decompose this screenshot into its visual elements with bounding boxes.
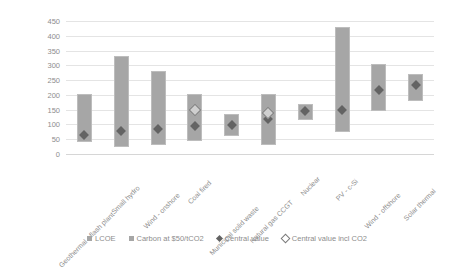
legend-item-2[interactable]: Central value (217, 234, 269, 243)
x-axis-label-9: Solar thermal (402, 187, 436, 221)
chart-legend: LCOECarbon at $50/tCO2Central valueCentr… (0, 234, 454, 243)
x-axis-label-8: Wind - offshore (363, 191, 401, 229)
x-axis-label-3: Coal fired (186, 179, 212, 205)
x-axis-label-6: Nuclear (299, 175, 321, 197)
legend-label: LCOE (95, 234, 115, 243)
legend-label: Carbon at $50/tCO2 (137, 234, 204, 243)
legend-diamond-hollow-icon (280, 234, 290, 244)
x-axis-label-2: Wind - onshore (142, 192, 181, 231)
legend-item-1[interactable]: Carbon at $50/tCO2 (129, 234, 204, 243)
legend-diamond-filled-icon (216, 235, 223, 242)
x-axis-label-1: Small hydro (110, 184, 141, 215)
legend-label: Central value (225, 234, 269, 243)
legend-item-3[interactable]: Central value incl CO2 (282, 234, 367, 243)
x-axis-label-4: Municipal solid waste (208, 205, 260, 257)
x-axis-label-7: PV - c-Si (335, 178, 359, 202)
legend-square-icon (129, 236, 134, 241)
legend-item-0[interactable]: LCOE (87, 234, 115, 243)
legend-square-icon (87, 236, 92, 241)
legend-label: Central value incl CO2 (292, 234, 367, 243)
